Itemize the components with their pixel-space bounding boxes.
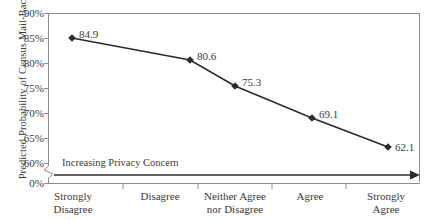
data-point-marker xyxy=(231,82,239,90)
privacy-concern-annotation: Increasing Privacy Concern xyxy=(62,157,179,168)
x-category-line-1: Disagree xyxy=(125,190,195,203)
data-point-marker xyxy=(68,34,76,42)
x-category-line-1: Agree xyxy=(279,190,341,203)
data-point-label: 84.9 xyxy=(79,29,98,40)
data-point-marker xyxy=(308,114,316,122)
data-point-label: 69.1 xyxy=(319,109,338,120)
x-axis-category-label: Strongly Agree xyxy=(352,190,420,215)
x-axis-category-label: Disagree xyxy=(125,190,195,203)
data-point-label: 75.3 xyxy=(242,77,261,88)
data-point-marker xyxy=(384,143,392,151)
x-axis-category-label: Strongly Disagree xyxy=(38,190,108,215)
plot-canvas xyxy=(0,0,435,220)
data-point-label: 80.6 xyxy=(197,51,216,62)
chart-figure: Predicted Probability of Census Mail-Bac… xyxy=(0,0,435,220)
x-category-line-2: nor Disagree xyxy=(192,203,278,216)
axis-break-icon xyxy=(44,166,53,178)
data-point-marker xyxy=(186,56,194,64)
x-category-line-1: Strongly xyxy=(38,190,108,203)
data-point-label: 62.1 xyxy=(395,142,414,153)
series-line xyxy=(72,38,388,147)
x-axis-category-label: Agree xyxy=(279,190,341,203)
privacy-concern-arrow-head xyxy=(410,171,420,180)
x-category-line-2: Disagree xyxy=(38,203,108,216)
x-category-line-1: Neither Agree xyxy=(192,190,278,203)
x-category-line-2: Agree xyxy=(352,203,420,216)
x-axis-category-label: Neither Agree nor Disagree xyxy=(192,190,278,215)
x-category-line-1: Strongly xyxy=(352,190,420,203)
